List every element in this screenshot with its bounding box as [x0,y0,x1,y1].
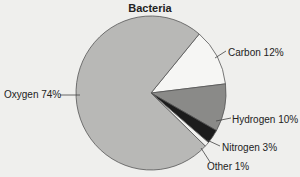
label-nitrogen: Nitrogen 3% [222,142,277,153]
label-oxygen: Oxygen 74% [4,89,61,100]
label-other: Other 1% [207,161,249,172]
label-hydrogen: Hydrogen 10% [232,114,298,125]
leader-line [207,140,220,146]
label-carbon: Carbon 12% [228,47,284,58]
leader-line [201,148,210,162]
leader-line [215,51,226,58]
